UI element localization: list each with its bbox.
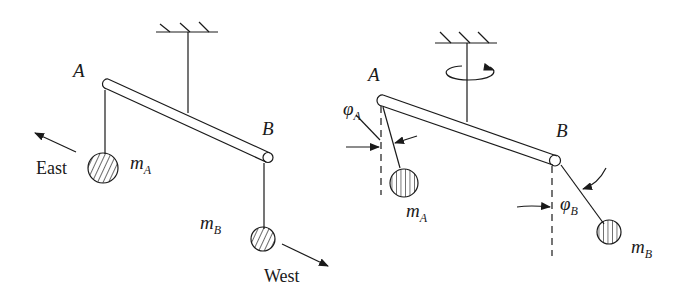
phi-b-arrow-right xyxy=(583,168,606,189)
east-arrow xyxy=(35,133,76,152)
mass-b-label: mB xyxy=(200,212,221,234)
mass-b-label: mB xyxy=(631,236,652,258)
mass-a-label: mA xyxy=(406,200,427,222)
point-b-label: B xyxy=(556,120,568,142)
right-panel xyxy=(346,32,621,256)
diagram-graphics xyxy=(0,0,692,301)
rotation-arrow-icon xyxy=(446,64,494,80)
ceiling-support-icon xyxy=(435,32,497,43)
rigid-bar xyxy=(377,95,561,166)
phi-a-label: φA xyxy=(343,98,361,120)
phi-b-label: φB xyxy=(560,193,578,215)
point-a-label: A xyxy=(368,64,380,86)
string-a xyxy=(383,107,400,168)
west-label: West xyxy=(264,266,300,287)
pendulum-diagram: A B mA mB East West A B φA φB mA mB xyxy=(0,0,692,301)
mass-a-ball xyxy=(88,153,118,183)
ceiling-support-icon xyxy=(156,22,218,32)
mass-a-ball xyxy=(390,169,418,197)
phi-a-arrow-right xyxy=(395,136,417,143)
point-b-label: B xyxy=(262,118,274,140)
point-a-label: A xyxy=(73,60,85,82)
mass-b-ball xyxy=(597,220,621,244)
mass-b-ball xyxy=(251,227,275,251)
phi-b-arrow-left xyxy=(517,206,550,207)
left-panel xyxy=(35,22,328,266)
mass-a-label: mA xyxy=(130,152,151,174)
west-arrow xyxy=(282,244,328,266)
east-label: East xyxy=(36,158,67,179)
